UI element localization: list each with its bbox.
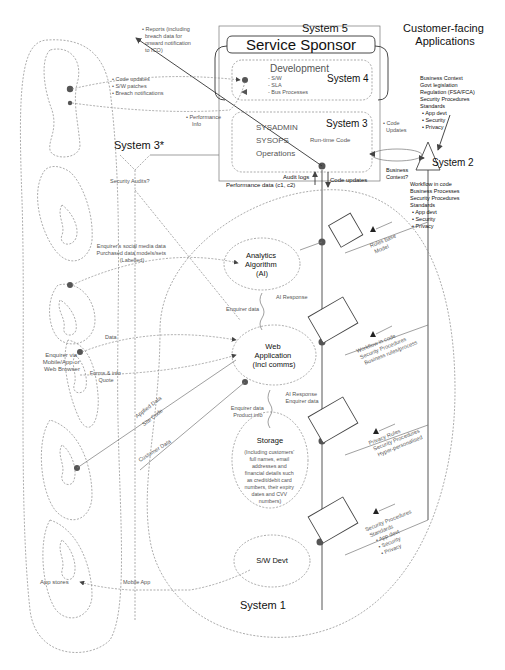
runtime-code-label: Run-time Code	[310, 137, 351, 143]
app-stores-label: App stores	[40, 579, 69, 585]
customer-facing-title: Customer-facing Applications	[403, 22, 487, 47]
business-context-label: Business Context?	[386, 167, 410, 180]
enquirer-data-ai-label: Enquirer data	[226, 306, 260, 312]
data-label: Data	[105, 334, 118, 340]
code-updates-label: Code updates	[330, 177, 367, 183]
service-sponsor-title[interactable]: Service Sponsor	[246, 36, 356, 53]
vsm-diagram: Enquirer via Mobile/App or Web Browser A…	[0, 0, 505, 670]
storage-left-label: Enquirer data Product info	[231, 405, 266, 418]
analytics-label: Analytics Algorithm (AI)	[245, 251, 279, 278]
security-procedures-label: Security Procedures Standards • App devt…	[364, 508, 424, 559]
system4-label: System 4	[327, 73, 369, 84]
social-media-label: Enquirer's social media data Purchased d…	[97, 243, 168, 263]
rules-base-label: Rules base Model	[369, 232, 401, 255]
system5-label: System 5	[302, 22, 348, 34]
audit-logs-label: Audit logs	[283, 174, 309, 180]
system2-label: System 2	[432, 157, 474, 168]
storage-title: Storage	[257, 436, 283, 445]
ai-response-label: AI Response	[276, 294, 308, 300]
system1-boundary	[147, 190, 455, 638]
system2-bottom-notes: Workflow in code Business Processes Secu…	[410, 181, 461, 229]
code-updates-side: • Code Updates	[383, 120, 407, 133]
security-audits-label: Security Audits?	[110, 178, 149, 184]
performance-data-label: Performance data (c1, c2)	[226, 182, 295, 188]
system4-items: - S/W - SLA - Bus Processes	[268, 75, 308, 95]
code-updates-list: • Code updates • S/W patches • Breach no…	[112, 76, 164, 96]
customer-data-label: Customer Data	[137, 438, 172, 463]
system3star-label: System 3*	[114, 139, 165, 151]
development-title: Development	[270, 63, 329, 74]
regulators: Rules base Model Workflow in code Securi…	[308, 213, 428, 558]
env-node-2[interactable]	[68, 101, 72, 105]
reports-label: • Reports (including breach data for onw…	[142, 26, 192, 53]
performance-info-label: • Performance Info	[186, 114, 222, 127]
storage-right-label: AI Response Enquirer data	[285, 391, 319, 404]
storage-description: (Including customers' full names, email …	[244, 449, 295, 504]
system3-label: System 3	[326, 118, 368, 129]
swdevt-label: S/W Devt	[256, 556, 289, 565]
enquirer-label: Enquirer via Mobile/App or Web Browser	[43, 352, 82, 372]
environment: Enquirer via Mobile/App or Web Browser A…	[20, 40, 121, 653]
system1-label: System 1	[240, 599, 286, 611]
mobile-app-label: Mobile App	[123, 579, 150, 585]
management-stack: System 5 Service Sponsor Development - S…	[215, 22, 388, 181]
privacy-rules-label: Privacy Rules Security Procedures Hyper-…	[368, 421, 425, 459]
system3-items: SYSADMIN SYSOPS Operations	[256, 123, 300, 158]
webapp-label: Web Application (Incl comms)	[253, 342, 296, 369]
